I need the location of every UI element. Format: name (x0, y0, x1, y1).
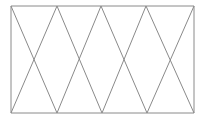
figure-background (0, 0, 206, 120)
triangle-lattice-figure (0, 0, 206, 120)
